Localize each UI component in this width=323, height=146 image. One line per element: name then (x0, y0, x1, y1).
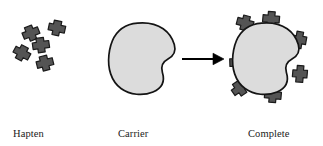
carrier-blob (109, 23, 175, 95)
hapten-cluster (11, 19, 66, 72)
complete-antigen-label: Complete antigen (248, 103, 290, 146)
hapten-label-line1: Hapten (13, 128, 56, 141)
attached-hapten-molecule (292, 65, 308, 83)
carrier-label-line1: Carrier (118, 128, 157, 141)
carrier-label: Carrier molecule (118, 103, 157, 146)
antigen-diagram: Hapten molecules Carrier molecule Comple… (0, 0, 323, 146)
antigen-blob (233, 23, 299, 95)
hapten-molecule (11, 43, 33, 64)
hapten-molecule (35, 54, 55, 72)
hapten-molecule (47, 19, 66, 37)
arrow-head (213, 53, 224, 65)
reaction-arrow (182, 53, 224, 65)
complete-antigen-label-line1: Complete (248, 128, 290, 141)
hapten-label: Hapten molecules (13, 103, 56, 146)
carrier-molecule (109, 23, 175, 95)
complete-antigen (229, 11, 308, 103)
